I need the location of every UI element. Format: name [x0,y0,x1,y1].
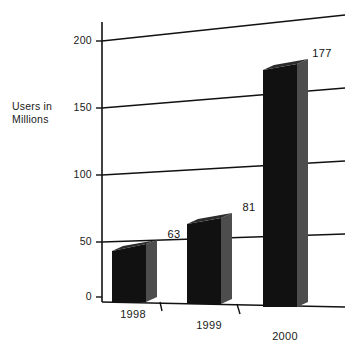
y-tick-label-50: 50 [66,235,92,247]
gridline-100 [102,161,345,175]
x-category-label-1999: 1999 [186,319,232,331]
gridline-200 [102,15,345,41]
bar-2000 [263,59,308,307]
x-category-label-1998: 1998 [110,308,156,320]
value-label-2000: 177 [305,47,339,59]
bar-1998 [112,240,157,302]
y-axis-title-line-2: Millions [12,113,78,126]
chart-plot-area [0,0,353,352]
value-label-1998: 63 [157,228,191,240]
bar-chart: Users in Millions 200 150 100 50 0 1998 … [0,0,353,352]
y-tick-label-150: 150 [66,101,92,113]
bar-1999 [187,213,232,304]
value-label-1999: 81 [232,201,266,213]
x-category-label-2000: 2000 [262,330,308,342]
y-tick-label-0: 0 [66,290,92,302]
y-tick-label-200: 200 [66,34,92,46]
y-tick-marks [96,41,102,297]
gridline-150 [102,88,345,108]
y-tick-label-100: 100 [66,168,92,180]
